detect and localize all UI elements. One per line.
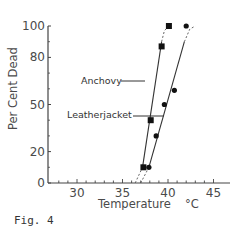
leatherjacket-circle-marker [154, 133, 159, 138]
anchovy-square-marker [159, 43, 165, 49]
x-tick-label: 45 [206, 186, 221, 200]
leatherjacket-circle-marker [172, 88, 177, 93]
leatherjacket-circle-marker [162, 102, 167, 107]
anchovy-fit-line [143, 42, 162, 168]
y-tick-label: 100 [22, 19, 45, 33]
anchovy-square-marker [140, 164, 146, 170]
y-tick-label: 0 [37, 176, 45, 190]
y-axis-title: Per Cent Dead [6, 47, 20, 130]
x-tick-label: 30 [69, 186, 84, 200]
y-tick-label: 80 [30, 50, 45, 64]
data-markers [140, 23, 188, 170]
leatherjacket-circle-marker [184, 23, 189, 28]
mortality-chart: 020508010030354045 AnchovyLeatherjacket … [0, 0, 244, 210]
y-tick-label: 50 [30, 98, 45, 112]
x-axis-unit: °C [185, 197, 199, 210]
y-tick-label: 20 [30, 145, 45, 159]
anchovy-square-marker [148, 117, 154, 123]
anchovy-square-marker [166, 23, 172, 29]
leatherjacket-circle-marker [146, 165, 151, 170]
figure-caption: Fig. 4 [14, 214, 54, 227]
x-axis-title: Temperature [97, 197, 171, 210]
annotations: AnchovyLeatherjacket [67, 75, 164, 120]
leatherjacket-label: Leatherjacket [67, 109, 132, 120]
anchovy-label: Anchovy [81, 75, 122, 86]
